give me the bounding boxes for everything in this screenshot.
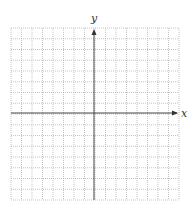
y-axis-arrow-icon: [92, 29, 97, 35]
grid-lines: [11, 28, 179, 200]
x-axis-arrow-icon: [172, 111, 178, 116]
x-axis-label: x: [181, 107, 188, 120]
coordinate-plane: x y: [0, 0, 189, 212]
y-axis-label: y: [90, 12, 98, 25]
y-axis: [92, 29, 97, 200]
